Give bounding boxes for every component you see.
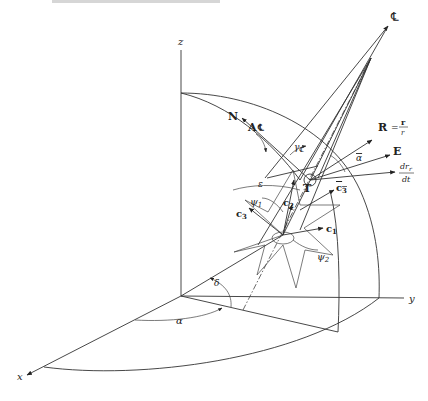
y-axis (181, 296, 404, 298)
celestial-geometry-diagram: z y x α δ ε (0, 0, 428, 401)
epsilon-arc (233, 185, 300, 190)
svg-text:drr: drr (400, 162, 413, 172)
svg-text:R: R (378, 121, 388, 134)
E-label: E (393, 145, 401, 158)
y-axis-label: y (408, 293, 415, 304)
inner-arc-to-body (181, 93, 300, 180)
svg-text:=: = (391, 123, 399, 133)
alpha-bar-label: α (356, 153, 362, 163)
projection-line (181, 296, 338, 332)
svg-text:r: r (401, 129, 405, 137)
z-axis-label: z (177, 36, 184, 47)
inner-meridian-arc (330, 190, 339, 332)
psi1-label: ψ1 (250, 196, 262, 209)
x-axis-label: x (17, 371, 23, 382)
drr-dt-label: drr dt (399, 162, 414, 184)
equator-arc (44, 298, 379, 371)
R-equals-r-over-r-label: R = r r (378, 117, 408, 137)
svg-text:dt: dt (402, 175, 411, 184)
c3-left-label: c3 (236, 208, 247, 221)
lower-vectors (249, 180, 323, 250)
N-label: N (228, 110, 238, 123)
gamma-cl-label: γ℄ (294, 142, 304, 154)
outer-meridian-arc (181, 93, 379, 298)
delta-label: δ (214, 278, 219, 288)
c1-vector (283, 228, 323, 235)
c3-right-label: c3 (336, 182, 347, 195)
A-cl-label: A℄ (247, 121, 264, 134)
coordinate-axes: z y x (17, 36, 415, 382)
svg-text:r: r (401, 117, 406, 127)
lower-body-star (234, 170, 340, 288)
cone-base-line (267, 166, 318, 178)
T-label: T (303, 182, 312, 195)
c1-label: c1 (326, 223, 337, 236)
psi2-arc (293, 240, 318, 250)
epsilon-label: ε (258, 179, 263, 189)
c2-label: c2 (283, 197, 294, 210)
alpha-label: α (176, 315, 183, 326)
body-outline (234, 170, 340, 288)
centerline-symbol-label: ℄ (390, 10, 399, 24)
radius-to-body (181, 235, 283, 296)
cone-edge-5 (318, 58, 371, 178)
x-axis (27, 296, 181, 375)
psi2-label: ψ2 (317, 251, 330, 264)
